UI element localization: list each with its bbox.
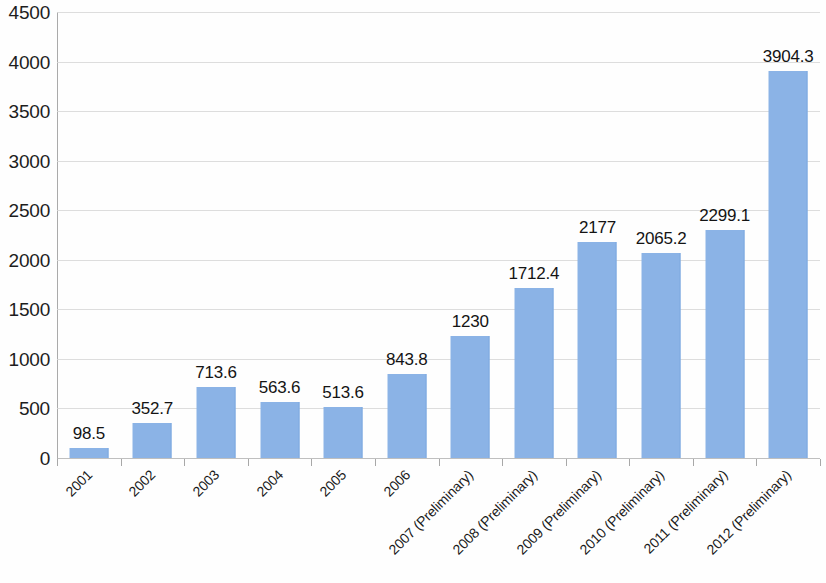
bar bbox=[260, 402, 299, 458]
x-axis-category-label: 2006 bbox=[381, 467, 413, 499]
bar-group: 3904.3 bbox=[756, 12, 820, 458]
y-axis-tick-label: 2000 bbox=[9, 250, 50, 269]
bar bbox=[514, 288, 553, 458]
bar-value-label: 1712.4 bbox=[508, 265, 559, 282]
y-axis-tick-label: 1000 bbox=[9, 349, 50, 368]
bar-value-label: 2065.2 bbox=[636, 230, 687, 247]
x-axis-tick bbox=[502, 459, 503, 466]
x-axis-tick bbox=[248, 459, 249, 466]
x-axis-tick bbox=[184, 459, 185, 466]
bar-group: 352.7 bbox=[121, 12, 185, 458]
bar bbox=[451, 336, 490, 458]
bar bbox=[324, 407, 363, 458]
bar bbox=[69, 448, 108, 458]
y-axis-tick-label: 4000 bbox=[9, 52, 50, 71]
bar-group: 2177 bbox=[566, 12, 630, 458]
y-axis-tick-label: 500 bbox=[19, 399, 50, 418]
bar bbox=[642, 253, 681, 458]
bar-value-label: 352.7 bbox=[132, 400, 174, 417]
x-axis-tick bbox=[57, 459, 58, 466]
bar-chart: 450040003500300025002000150010005000 98.… bbox=[0, 0, 826, 583]
bar-group: 2299.1 bbox=[693, 12, 757, 458]
x-axis-tick bbox=[439, 459, 440, 466]
x-axis-tick bbox=[820, 459, 821, 466]
x-axis-tick bbox=[566, 459, 567, 466]
x-axis-category-label: 2005 bbox=[317, 467, 349, 499]
x-axis-tick bbox=[311, 459, 312, 466]
bar-value-label: 1230 bbox=[452, 313, 489, 330]
bar-value-label: 3904.3 bbox=[763, 48, 814, 65]
bar bbox=[705, 230, 744, 458]
y-axis-tick-label: 4500 bbox=[9, 3, 50, 22]
y-axis-tick-label: 3500 bbox=[9, 102, 50, 121]
bar bbox=[387, 374, 426, 458]
x-axis-tick bbox=[375, 459, 376, 466]
bar-value-label: 2299.1 bbox=[699, 207, 750, 224]
bar-value-label: 563.6 bbox=[259, 379, 301, 396]
x-axis-category-label: 2003 bbox=[190, 467, 222, 499]
bar-group: 1712.4 bbox=[502, 12, 566, 458]
bar-value-label: 843.8 bbox=[386, 351, 428, 368]
y-axis: 450040003500300025002000150010005000 bbox=[0, 0, 50, 583]
y-axis-tick-label: 3000 bbox=[9, 151, 50, 170]
x-axis-category-label: 2002 bbox=[126, 467, 158, 499]
bar-value-label: 513.6 bbox=[322, 384, 364, 401]
bar-group: 1230 bbox=[439, 12, 503, 458]
bar-group: 563.6 bbox=[248, 12, 312, 458]
bar-group: 713.6 bbox=[184, 12, 248, 458]
bar-value-label: 98.5 bbox=[73, 425, 105, 442]
bar-value-label: 713.6 bbox=[195, 364, 237, 381]
y-axis-tick-label: 1500 bbox=[9, 300, 50, 319]
bar bbox=[196, 387, 235, 458]
bar-value-label: 2177 bbox=[579, 219, 616, 236]
x-axis-tick bbox=[693, 459, 694, 466]
x-axis-category-label: 2004 bbox=[254, 467, 286, 499]
bar-group: 2065.2 bbox=[629, 12, 693, 458]
y-axis-tick-label: 2500 bbox=[9, 201, 50, 220]
x-axis-tick bbox=[756, 459, 757, 466]
x-axis-tick bbox=[121, 459, 122, 466]
bar bbox=[578, 242, 617, 458]
y-axis-tick-label: 0 bbox=[40, 449, 50, 468]
bar bbox=[133, 423, 172, 458]
bar-group: 98.5 bbox=[57, 12, 121, 458]
bar-group: 843.8 bbox=[375, 12, 439, 458]
x-axis-tick bbox=[629, 459, 630, 466]
bar bbox=[769, 71, 808, 458]
plot-area: 98.5352.7713.6563.6513.6843.812301712.42… bbox=[57, 12, 820, 458]
bar-group: 513.6 bbox=[311, 12, 375, 458]
x-axis-category-label: 2001 bbox=[63, 467, 95, 499]
